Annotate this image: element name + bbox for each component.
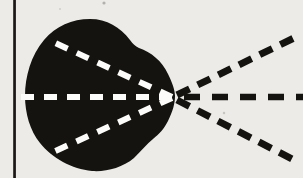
scan-speck [223,112,225,114]
figure-canvas [0,0,303,178]
figure [0,0,303,178]
scan-speck [102,1,105,4]
scan-speck [59,8,61,10]
figure-border-line [13,0,16,178]
